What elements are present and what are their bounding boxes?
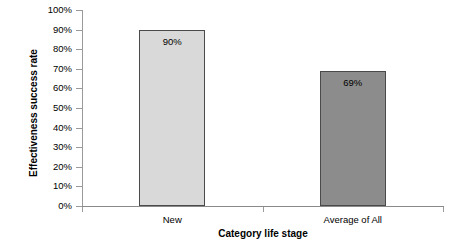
x-axis-tick: [82, 207, 83, 212]
x-axis-category-label: Average of All: [263, 214, 444, 226]
y-axis-tick-label: 0%: [36, 201, 72, 211]
y-axis-tick-label: 90%: [36, 25, 72, 35]
y-axis-tick: [76, 10, 82, 11]
y-axis-tick-label: 80%: [36, 44, 72, 54]
y-axis-tick: [76, 186, 82, 187]
y-axis-tick: [76, 69, 82, 70]
y-axis-tick: [76, 108, 82, 109]
y-axis-tick-label: 10%: [36, 181, 72, 191]
y-axis-tick: [76, 206, 82, 207]
x-axis-title: Category life stage: [82, 228, 444, 240]
y-axis-tick-label: 60%: [36, 83, 72, 93]
y-axis-line: [82, 10, 83, 207]
y-axis-tick: [76, 167, 82, 168]
y-axis-tick: [76, 88, 82, 89]
bar-new[interactable]: 90%: [139, 30, 205, 206]
x-axis-category-label: New: [82, 214, 263, 226]
y-axis-tick-label: 30%: [36, 142, 72, 152]
bar-chart: Effectiveness success rate 100%90%80%70%…: [0, 0, 468, 242]
bar-value-label: 69%: [321, 77, 385, 88]
x-axis-tick: [263, 207, 264, 212]
y-axis-tick: [76, 147, 82, 148]
y-axis-tick-label: 40%: [36, 123, 72, 133]
y-axis-tick: [76, 49, 82, 50]
y-axis-tick: [76, 128, 82, 129]
y-axis-tick-label: 70%: [36, 64, 72, 74]
y-axis-tick-label: 50%: [36, 103, 72, 113]
y-axis-tick-labels: 100%90%80%70%60%50%40%30%20%10%0%: [34, 0, 72, 242]
bar-value-label: 90%: [140, 36, 204, 47]
x-axis-tick: [443, 207, 444, 212]
y-axis-tick-label: 20%: [36, 162, 72, 172]
y-axis-tick-label: 100%: [36, 5, 72, 15]
bar-average-of-all[interactable]: 69%: [320, 71, 386, 206]
y-axis-tick: [76, 30, 82, 31]
